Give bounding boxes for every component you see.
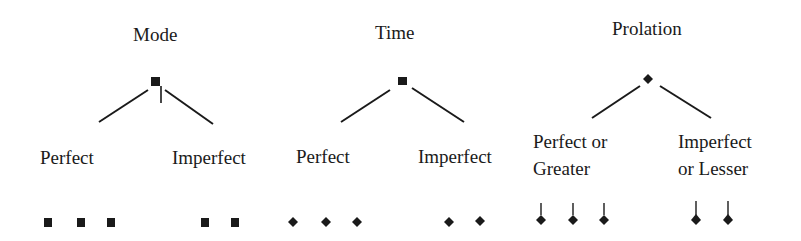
prolation-branch-right [660, 86, 711, 118]
mode-perfect-notes [44, 218, 115, 227]
mode-imperfect-notes [201, 218, 239, 227]
prolation-perfect-notes [536, 203, 609, 225]
square-note-icon [77, 218, 85, 227]
square-note-icon [107, 218, 115, 227]
time-branch-left [341, 90, 390, 122]
time-head-square-icon [398, 77, 407, 85]
diamond-note-icon [444, 217, 454, 227]
square-note-icon [44, 218, 52, 227]
stemmed-diamond-note-icon [599, 203, 609, 225]
prolation-head-diamond-icon [643, 74, 653, 84]
mode-head-square-icon [151, 77, 161, 103]
diamond-note-icon [288, 217, 298, 227]
time-branch-right [412, 88, 464, 122]
stemmed-diamond-note-icon [536, 203, 546, 225]
time-imperfect-notes [444, 216, 485, 227]
square-note-icon [201, 218, 209, 227]
time-perfect-notes [288, 217, 362, 227]
stemmed-diamond-note-icon [691, 201, 701, 225]
square-note-icon [231, 218, 239, 227]
mode-branch-right [165, 90, 213, 124]
prolation-branch-left [592, 86, 640, 118]
mode-branch-left [99, 90, 148, 122]
prolation-imperfect-notes [691, 201, 733, 225]
diamond-note-icon [352, 217, 362, 227]
stemmed-diamond-note-icon [723, 201, 733, 225]
stemmed-diamond-note-icon [568, 203, 578, 225]
diamond-note-icon [321, 217, 331, 227]
notation-diagram [0, 0, 801, 241]
diamond-note-icon [475, 216, 485, 226]
